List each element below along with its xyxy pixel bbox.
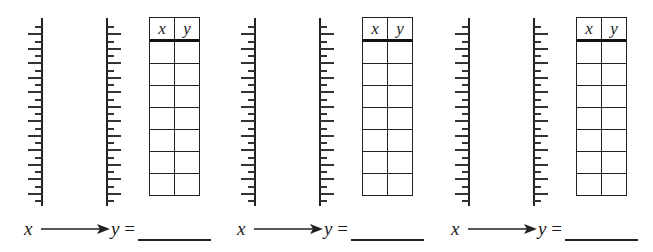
cell-x[interactable]	[150, 130, 175, 152]
cell-y[interactable]	[175, 152, 200, 174]
output-equation: y =	[538, 218, 562, 240]
tick-mark	[35, 55, 42, 57]
answer-blank[interactable]	[138, 239, 211, 241]
cell-x[interactable]	[150, 86, 175, 108]
cell-x[interactable]	[363, 152, 388, 174]
tick-mark	[534, 193, 548, 195]
table-header-y: y	[388, 18, 413, 41]
table-row	[577, 41, 627, 64]
cell-y[interactable]	[175, 41, 200, 64]
cell-x[interactable]	[577, 108, 602, 130]
cell-y[interactable]	[602, 108, 627, 130]
tick-mark	[534, 128, 541, 130]
cell-x[interactable]	[577, 174, 602, 196]
tick-mark	[462, 186, 469, 188]
tick-mark	[28, 77, 42, 79]
table-row	[577, 108, 627, 130]
tick-mark	[320, 157, 327, 159]
cell-y[interactable]	[602, 174, 627, 196]
cell-y[interactable]	[175, 130, 200, 152]
tick-mark	[241, 62, 255, 64]
cell-x[interactable]	[577, 130, 602, 152]
cell-y[interactable]	[388, 41, 413, 64]
tick-mark	[107, 164, 121, 166]
equals-sign: =	[337, 218, 348, 239]
cell-x[interactable]	[577, 86, 602, 108]
cell-x[interactable]	[577, 152, 602, 174]
cell-y[interactable]	[175, 86, 200, 108]
tick-mark	[455, 193, 469, 195]
tick-mark	[107, 200, 114, 202]
tick-mark	[35, 41, 42, 43]
tick-mark	[320, 200, 327, 202]
cell-x[interactable]	[363, 64, 388, 86]
cell-y[interactable]	[602, 152, 627, 174]
tick-mark	[455, 77, 469, 79]
cell-y[interactable]	[602, 86, 627, 108]
input-variable: x	[237, 218, 245, 240]
tick-mark	[107, 128, 114, 130]
tick-mark	[35, 70, 42, 72]
table-row	[150, 174, 200, 196]
table-header-y: y	[602, 18, 627, 41]
equals-sign: =	[124, 218, 135, 239]
tick-mark	[28, 193, 42, 195]
tick-mark	[455, 91, 469, 93]
tick-mark	[455, 178, 469, 180]
tick-mark	[35, 157, 42, 159]
tick-mark	[35, 84, 42, 86]
cell-x[interactable]	[363, 41, 388, 64]
tick-mark	[28, 135, 42, 137]
cell-x[interactable]	[363, 130, 388, 152]
tick-mark	[534, 200, 541, 202]
cell-y[interactable]	[602, 64, 627, 86]
tick-mark	[320, 41, 327, 43]
cell-x[interactable]	[150, 108, 175, 130]
table-row	[363, 86, 413, 108]
tick-mark	[462, 142, 469, 144]
cell-x[interactable]	[150, 41, 175, 64]
tick-mark	[534, 135, 548, 137]
cell-y[interactable]	[388, 108, 413, 130]
tick-mark	[107, 26, 114, 28]
cell-y[interactable]	[602, 41, 627, 64]
cell-x[interactable]	[363, 108, 388, 130]
tick-mark	[462, 41, 469, 43]
cell-y[interactable]	[388, 64, 413, 86]
cell-x[interactable]	[150, 174, 175, 196]
cell-x[interactable]	[577, 41, 602, 64]
tick-mark	[107, 135, 121, 137]
tick-mark	[320, 106, 334, 108]
function-section-2: x y x y =	[213, 0, 426, 252]
cell-y[interactable]	[175, 64, 200, 86]
tick-mark	[534, 186, 541, 188]
answer-blank[interactable]	[565, 239, 638, 241]
tick-mark	[534, 62, 548, 64]
cell-x[interactable]	[577, 64, 602, 86]
tick-mark	[241, 91, 255, 93]
cell-y[interactable]	[388, 86, 413, 108]
arrow-right-icon	[254, 223, 324, 235]
tick-mark	[28, 106, 42, 108]
cell-y[interactable]	[175, 174, 200, 196]
tick-mark	[320, 149, 334, 151]
tick-mark	[534, 164, 548, 166]
cell-x[interactable]	[150, 152, 175, 174]
cell-x[interactable]	[150, 64, 175, 86]
tick-mark	[320, 48, 334, 50]
cell-y[interactable]	[175, 108, 200, 130]
tick-mark	[35, 113, 42, 115]
tick-mark	[320, 171, 327, 173]
cell-x[interactable]	[363, 174, 388, 196]
cell-y[interactable]	[388, 174, 413, 196]
answer-blank[interactable]	[351, 239, 424, 241]
table-row	[577, 130, 627, 152]
cell-y[interactable]	[602, 130, 627, 152]
cell-y[interactable]	[388, 130, 413, 152]
cell-y[interactable]	[388, 152, 413, 174]
tick-mark	[28, 33, 42, 35]
cell-x[interactable]	[363, 86, 388, 108]
tick-mark	[455, 135, 469, 137]
tick-mark	[534, 99, 541, 101]
output-equation: y =	[111, 218, 135, 240]
